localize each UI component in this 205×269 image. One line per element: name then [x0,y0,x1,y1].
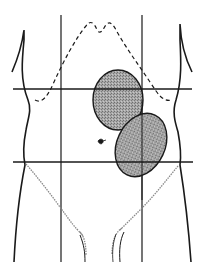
abdomen-diagram [0,0,205,269]
thigh-line-right-inner [113,234,116,262]
torso-outline-left [12,30,30,262]
groin-line-left [26,164,86,255]
groin-line-right [112,166,178,255]
navel-icon [98,139,106,144]
thigh-line-right [120,232,124,262]
torso-outline-right [174,24,192,262]
